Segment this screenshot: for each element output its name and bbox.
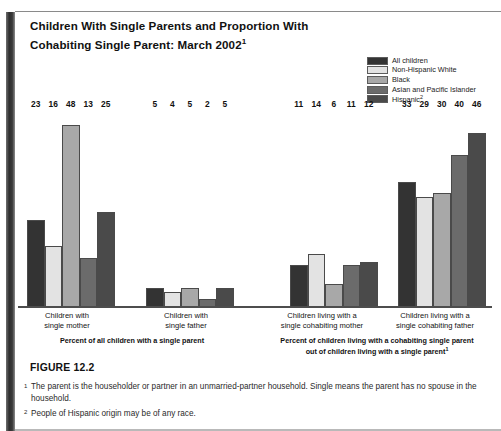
figure-page: Children With Single Parents and Proport… [0,0,501,431]
legend-swatch-3 [367,86,388,94]
bar-value-label: 11 [294,100,303,109]
category-label-line-1: single mother [12,321,122,331]
bar-rect: 13 [80,258,98,307]
category-label-line-0: Children with [131,311,241,321]
bar-1-2: 5 [181,110,199,307]
figure-title: Children With Single Parents and Proport… [30,18,430,52]
category-label-line-0: Children with [12,311,122,321]
bar-value-label: 33 [402,100,411,109]
chart-baseline-axis [18,306,492,308]
legend-label-0: All children [392,57,428,65]
category-label-line-1: single father [131,321,241,331]
bar-value-label: 6 [331,100,336,109]
bar-value-label: 23 [31,100,40,109]
bar-rect: 6 [325,284,343,307]
bar-rect: 30 [433,193,451,307]
bar-rect: 29 [416,197,434,307]
bar-1-3: 2 [199,110,217,307]
category-label-line-0: Children living with a [262,311,382,321]
bar-0-4: 25 [97,110,115,307]
legend-item-1: Non-Hispanic White [367,66,476,76]
legend-item-2: Black [367,75,476,85]
legend-swatch-2 [367,76,388,84]
bar-3-0: 33 [398,110,416,307]
bar-value-label: 29 [420,100,429,109]
bar-rect: 14 [308,254,326,307]
bar-value-label: 4 [170,100,175,109]
bar-value-label: 30 [437,100,446,109]
bar-0-3: 13 [80,110,98,307]
bar-1-1: 4 [164,110,182,307]
bar-0-1: 16 [45,110,63,307]
footnote-marker-1: 1 [24,380,27,392]
category-label-1: Children withsingle father [131,311,241,330]
category-label-3: Children living with asingle cohabiting … [375,311,495,330]
bar-value-label: 5 [187,100,192,109]
bar-2-1: 14 [308,110,326,307]
legend-label-2: Black [392,76,410,84]
bar-value-label: 11 [347,100,356,109]
bar-rect: 46 [468,133,486,307]
legend-label-1: Non-Hispanic White [392,66,456,74]
bar-rect: 40 [451,155,469,307]
panel-footnote-marker: 1 [445,346,448,352]
bar-2-4: 12 [360,110,378,307]
panel-axis-title-line-1: out of children living with a single par… [258,345,496,357]
panel-axis-title-line-0: Percent of all children with a single pa… [16,336,248,345]
category-label-line-0: Children living with a [375,311,495,321]
footnote-1: 1The parent is the householder or partne… [24,381,486,406]
bar-rect: 11 [290,265,308,307]
legend-swatch-1 [367,66,388,74]
bar-value-label: 16 [49,100,58,109]
bar-group-3: 3329304046 [398,110,486,307]
bar-0-2: 48 [62,110,80,307]
bar-value-label: 14 [312,100,321,109]
bar-3-2: 30 [433,110,451,307]
panel-axis-title-1: Percent of children living with a cohabi… [258,336,496,357]
bar-value-label: 46 [472,100,481,109]
bar-value-label: 5 [222,100,227,109]
bar-rect: 11 [343,265,361,307]
bar-2-3: 11 [343,110,361,307]
bar-value-label: 2 [205,100,210,109]
page-gutter-shadow [6,12,15,431]
bar-rect: 12 [360,262,378,307]
footnote-marker-2: 2 [24,406,27,418]
bar-rect: 5 [216,288,234,307]
bar-rect: 16 [45,246,63,307]
bar-3-1: 29 [416,110,434,307]
category-label-line-1: single cohabiting mother [262,321,382,331]
chart-legend: All childrenNon-Hispanic WhiteBlackAsian… [367,56,476,104]
bar-1-0: 5 [146,110,164,307]
footnote-text-2: People of Hispanic origin may be of any … [31,409,196,418]
panel-axis-title-line-0: Percent of children living with a cohabi… [258,336,496,345]
bar-rect: 48 [62,125,80,307]
top-rule-divider [15,11,501,12]
figure-footnotes: 1The parent is the householder or partne… [24,381,486,422]
figure-title-line-1: Children With Single Parents and Proport… [30,19,308,32]
category-label-2: Children living with asingle cohabiting … [262,311,382,330]
figure-number: FIGURE 12.2 [30,362,95,373]
bar-2-0: 11 [290,110,308,307]
bar-rect: 23 [27,220,45,307]
bar-3-4: 46 [468,110,486,307]
bar-rect: 4 [164,292,182,307]
category-label-line-1: single cohabiting father [375,321,495,331]
bar-value-label: 40 [455,100,464,109]
figure-title-footnote-marker: 1 [242,37,247,46]
panel-axis-title-0: Percent of all children with a single pa… [16,336,248,345]
footnote-text-1: The parent is the householder or partner… [31,382,477,403]
bar-group-2: 111461112 [290,110,378,307]
bar-group-1: 54525 [146,110,234,307]
footnote-2: 2People of Hispanic origin may be of any… [24,408,486,420]
bar-value-label: 13 [84,100,93,109]
legend-item-0: All children [367,56,476,66]
bar-3-3: 40 [451,110,469,307]
chart-plot-area: 2316481325545251114611123329304046 [18,110,496,307]
legend-swatch-0 [367,57,388,65]
bar-rect: 5 [146,288,164,307]
bar-value-label: 25 [101,100,110,109]
bar-rect: 5 [181,288,199,307]
bar-value-label: 12 [364,100,373,109]
bar-0-0: 23 [27,110,45,307]
